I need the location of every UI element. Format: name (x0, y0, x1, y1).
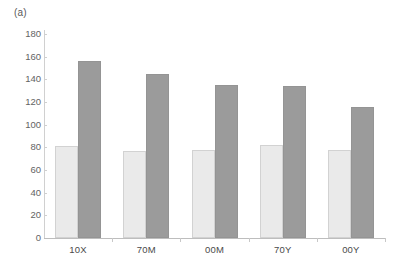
x-axis-tick-mark (385, 238, 386, 242)
bar-series-1-00Y[interactable] (328, 150, 351, 238)
x-axis-label-10X: 10X (44, 244, 112, 256)
bar-series-2-10X[interactable] (78, 61, 101, 238)
x-axis-tick-mark (317, 238, 318, 242)
y-axis-tick-label: 40 (1, 188, 41, 198)
bar-series-2-00M[interactable] (215, 85, 238, 238)
plot-area (44, 34, 385, 238)
y-axis-tick-label: 100 (1, 120, 41, 130)
bar-series-1-70Y[interactable] (260, 145, 283, 238)
y-axis-tick-label: 80 (1, 142, 41, 152)
x-axis-label-00Y: 00Y (317, 244, 385, 256)
x-axis-tick-mark (112, 238, 113, 242)
y-axis-tick-label: 160 (1, 52, 41, 62)
y-axis-tick-label: 180 (1, 29, 41, 39)
bar-series-2-70Y[interactable] (283, 86, 306, 238)
x-axis-line (44, 238, 385, 239)
x-axis-tick-mark (180, 238, 181, 242)
y-axis-tick-label: 20 (1, 210, 41, 220)
y-axis-tick-label: 60 (1, 165, 41, 175)
bar-group (328, 34, 374, 238)
y-axis-tick-label: 0 (1, 233, 41, 243)
bar-group (192, 34, 238, 238)
y-axis-tick-label: 140 (1, 74, 41, 84)
x-axis-tick-mark (249, 238, 250, 242)
x-axis-label-00M: 00M (180, 244, 248, 256)
x-axis-label-70M: 70M (112, 244, 180, 256)
y-axis-tick-label: 120 (1, 97, 41, 107)
x-axis-label-70Y: 70Y (249, 244, 317, 256)
bar-series-1-00M[interactable] (192, 150, 215, 238)
bar-group (123, 34, 169, 238)
y-axis-tick-labels: 020406080100120140160180 (0, 0, 41, 269)
bar-series-2-70M[interactable] (146, 74, 169, 238)
bar-group (260, 34, 306, 238)
bar-series-1-70M[interactable] (123, 151, 146, 238)
bar-series-1-10X[interactable] (55, 146, 78, 238)
bar-group (55, 34, 101, 238)
chart-figure: (a) 020406080100120140160180 10X70M00M70… (0, 0, 398, 269)
bar-series-2-00Y[interactable] (351, 107, 374, 238)
